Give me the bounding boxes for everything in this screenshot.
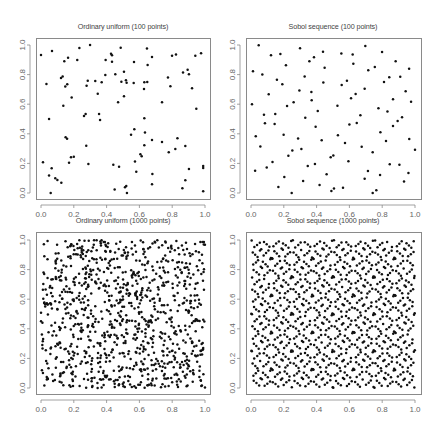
x-tick-label: 1.0 (199, 405, 211, 414)
scatter-panel-0: 0.00.20.40.60.81.00.00.20.40.60.81.0 (18, 39, 211, 220)
x-tick-label: 0.0 (35, 405, 47, 414)
y-tick-label: 0.2 (18, 157, 27, 169)
scatter-plots: 0.00.20.40.60.81.00.00.20.40.60.81.00.00… (0, 0, 445, 427)
scatter-panel-2: 0.00.20.40.60.81.00.00.20.40.60.81.0 (18, 233, 211, 415)
x-tick-label: 0.2 (68, 405, 80, 414)
x-tick-label: 1.0 (409, 210, 421, 219)
plot-frame (37, 233, 211, 395)
y-tick-label: 0.6 (228, 293, 237, 305)
x-tick-label: 0.6 (134, 210, 146, 219)
y-tick-label: 0.2 (18, 352, 27, 364)
x-tick-label: 0.0 (245, 405, 257, 414)
y-tick-label: 1.0 (228, 39, 237, 51)
y-tick-label: 0.8 (18, 68, 27, 80)
y-tick-label: 0.6 (228, 98, 237, 110)
y-tick-label: 0.6 (18, 98, 27, 110)
x-tick-label: 0.8 (167, 210, 179, 219)
x-tick-label: 1.0 (199, 210, 211, 219)
x-tick-label: 1.0 (409, 405, 421, 414)
y-tick-label: 0.4 (18, 128, 27, 140)
y-tick-label: 0.8 (228, 68, 237, 80)
scatter-panel-1: 0.00.20.40.60.81.00.00.20.40.60.81.0 (228, 39, 422, 220)
x-tick-label: 0.6 (344, 405, 356, 414)
scatter-panel-3: 0.00.20.40.60.81.00.00.20.40.60.81.0 (228, 233, 422, 415)
x-tick-label: 0.2 (278, 210, 290, 219)
y-tick-label: 0.4 (228, 128, 237, 140)
y-tick-label: 0.2 (228, 157, 237, 169)
y-tick-label: 0.4 (228, 323, 237, 335)
x-tick-label: 0.0 (35, 210, 47, 219)
y-tick-label: 0.0 (228, 382, 237, 394)
x-tick-label: 0.8 (377, 210, 389, 219)
plot-frame (37, 39, 211, 200)
y-tick-label: 0.0 (18, 187, 27, 199)
y-tick-label: 0.6 (18, 293, 27, 305)
data-points (251, 44, 417, 194)
y-tick-label: 0.2 (228, 352, 237, 364)
data-points (40, 44, 205, 195)
x-tick-label: 0.2 (278, 405, 290, 414)
x-tick-label: 0.4 (101, 210, 113, 219)
y-tick-label: 1.0 (18, 234, 27, 246)
x-tick-label: 0.6 (344, 210, 356, 219)
x-tick-label: 0.4 (311, 210, 323, 219)
plot-frame (247, 39, 422, 200)
y-tick-label: 0.8 (228, 263, 237, 275)
x-tick-label: 0.8 (377, 405, 389, 414)
x-tick-label: 0.4 (311, 405, 323, 414)
x-tick-label: 0.2 (68, 210, 80, 219)
y-tick-label: 0.8 (18, 263, 27, 275)
x-tick-label: 0.0 (245, 210, 257, 219)
y-tick-label: 0.0 (18, 382, 27, 394)
y-tick-label: 1.0 (228, 234, 237, 246)
y-tick-label: 0.4 (18, 323, 27, 335)
data-points (250, 239, 416, 389)
y-tick-label: 0.0 (228, 187, 237, 199)
data-points (40, 239, 206, 389)
x-tick-label: 0.6 (134, 405, 146, 414)
x-tick-label: 0.8 (167, 405, 179, 414)
x-tick-label: 0.4 (101, 405, 113, 414)
y-tick-label: 1.0 (18, 39, 27, 51)
